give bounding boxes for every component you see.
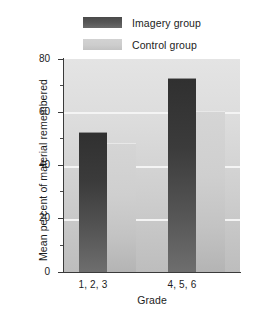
y-axis-title: Mean percent of material remembered [37,67,49,273]
legend-swatch-imagery-icon [83,17,122,28]
plot-area [64,59,240,272]
y-tick-label-80: 80 [24,53,50,64]
y-axis-title-wrap: Mean percent of material remembered [10,60,24,266]
legend-item-imagery: Imagery group [83,14,201,31]
legend-label-control: Control group [132,39,197,51]
y-tick-60 [58,112,63,113]
chart-legend: Imagery group Control group [83,14,201,58]
y-tick-50 [60,138,63,139]
y-tick-80 [58,59,63,60]
y-tick-40 [58,165,63,166]
legend-item-control: Control group [83,36,201,53]
x-tick-label-grade-1-2-3: 1, 2, 3 [63,279,123,290]
x-axis-title: Grade [64,294,240,306]
bar-control-grade-1-2-3 [107,143,136,272]
y-tick-30 [60,191,63,192]
x-tick-label-grade-4-5-6: 4, 5, 6 [152,279,212,290]
y-tick-70 [60,85,63,86]
x-axis-line [63,272,241,273]
y-axis-line [63,58,64,273]
legend-swatch-control-icon [83,39,122,50]
y-tick-10 [60,245,63,246]
bar-control-grade-4-5-6 [196,111,225,272]
y-tick-20 [58,218,63,219]
bar-chart: Imagery group Control group 80 60 40 20 [0,0,264,311]
bar-imagery-grade-1-2-3 [79,132,107,272]
legend-label-imagery: Imagery group [132,17,201,29]
y-tick-0 [58,272,63,273]
bar-imagery-grade-4-5-6 [168,78,196,272]
